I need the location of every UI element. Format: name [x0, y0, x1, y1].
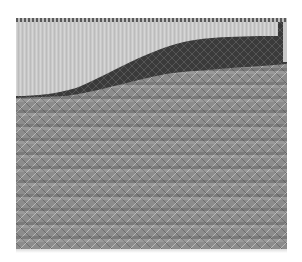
bottom-shadow — [16, 249, 287, 253]
textile-image — [16, 18, 287, 249]
right-light-strip — [283, 22, 287, 62]
top-border — [16, 18, 287, 22]
upper-fields — [16, 18, 287, 249]
